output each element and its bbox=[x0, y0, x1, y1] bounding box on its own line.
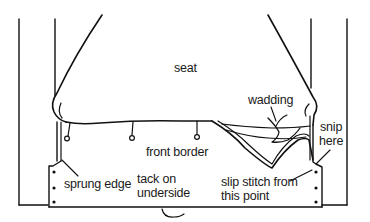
label-wadding: wadding bbox=[248, 93, 293, 107]
label-snip-here-2: here bbox=[319, 134, 343, 148]
label-seat: seat bbox=[174, 61, 197, 75]
label-slip-stitch-2: this point bbox=[221, 189, 269, 203]
label-sprung-edge: sprung edge bbox=[64, 177, 131, 191]
pin-head-3 bbox=[195, 135, 200, 140]
label-front-border: front border bbox=[146, 145, 208, 159]
pin-head-2 bbox=[130, 136, 135, 141]
label-snip-here-1: snip bbox=[320, 120, 342, 134]
label-slip-stitch-1: slip stitch from bbox=[221, 175, 298, 189]
label-tack-on-underside-1: tack on bbox=[137, 172, 176, 186]
pin-head-1 bbox=[65, 136, 70, 141]
upholstery-diagram: seat wadding front border snip here spru… bbox=[0, 0, 370, 222]
label-tack-on-underside-2: underside bbox=[137, 186, 190, 200]
